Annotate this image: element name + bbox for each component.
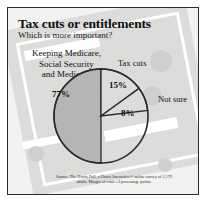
slice-value-keeping-medicare: 77% [52,89,70,99]
pie-slice-keeping-medicare [54,69,101,163]
slice-callout-tax-cuts: Tax cuts [118,58,146,68]
slice-value-tax-cuts: 15% [109,80,127,90]
slice-value-not-sure: 8% [121,108,135,118]
source-note: Source: The Harris Poll, a Harris Intera… [54,174,174,184]
slice-callout-not-sure: Not sure [158,94,187,104]
infographic-panel: Tax cuts or entitlements Which is more i… [7,7,199,195]
